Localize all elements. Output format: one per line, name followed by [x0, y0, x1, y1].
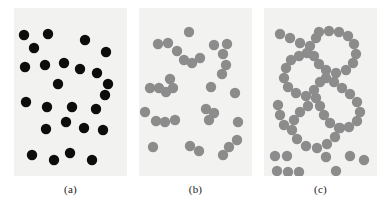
data-point: [218, 150, 228, 160]
data-point: [153, 39, 163, 49]
panel-c: [264, 8, 377, 176]
data-point: [65, 148, 75, 158]
caption-c: (c): [264, 182, 377, 196]
scatter-plot-b: [139, 8, 252, 176]
data-point: [331, 68, 341, 78]
data-point: [53, 79, 63, 89]
data-point: [19, 30, 29, 40]
data-point: [279, 120, 289, 130]
data-point: [349, 39, 359, 49]
panel-a: [14, 8, 127, 176]
data-point: [351, 49, 361, 59]
panels-row: [0, 0, 391, 207]
data-point: [292, 134, 302, 144]
data-point: [75, 64, 85, 74]
data-point: [170, 115, 180, 125]
data-point: [160, 117, 170, 127]
data-point: [67, 102, 77, 112]
data-point: [92, 68, 102, 78]
data-point: [272, 166, 282, 176]
data-point: [140, 107, 150, 117]
data-point: [281, 63, 291, 73]
data-point: [273, 100, 283, 110]
data-point: [279, 73, 289, 83]
data-point: [40, 60, 50, 70]
data-point: [295, 38, 305, 48]
data-point: [79, 123, 89, 133]
data-point: [21, 97, 31, 107]
data-point: [334, 27, 344, 37]
data-point: [98, 125, 108, 135]
data-point: [275, 110, 285, 120]
data-point: [341, 65, 351, 75]
data-point: [43, 29, 53, 39]
data-point: [204, 115, 214, 125]
data-point: [344, 122, 354, 132]
caption-b: (b): [139, 182, 252, 196]
data-point: [80, 35, 90, 45]
data-point: [185, 141, 195, 151]
data-point: [20, 62, 30, 72]
panel-b: [139, 8, 252, 176]
data-point: [319, 110, 329, 120]
data-point: [41, 124, 51, 134]
data-point: [100, 90, 110, 100]
data-point: [101, 47, 111, 57]
data-point: [209, 40, 219, 50]
data-point: [184, 27, 194, 37]
data-point: [289, 115, 299, 125]
data-point: [270, 151, 280, 161]
data-point: [165, 74, 175, 84]
data-point: [194, 146, 204, 156]
data-point: [195, 53, 205, 63]
data-point: [221, 60, 231, 70]
data-point: [230, 88, 240, 98]
data-point: [352, 97, 362, 107]
data-point: [148, 142, 158, 152]
caption-a: (a): [14, 182, 127, 196]
data-point: [283, 167, 293, 176]
data-point: [294, 167, 304, 176]
data-point: [275, 29, 285, 39]
data-point: [103, 79, 113, 89]
data-point: [345, 151, 355, 161]
data-point: [91, 104, 101, 114]
data-point: [29, 43, 39, 53]
data-point: [49, 155, 59, 165]
data-point: [355, 107, 365, 117]
data-point: [218, 49, 228, 59]
data-point: [345, 89, 355, 99]
data-point: [301, 141, 311, 151]
figure-container: (a) (b) (c): [0, 0, 391, 207]
data-point: [27, 150, 37, 160]
data-point: [233, 117, 243, 127]
data-point: [232, 135, 242, 145]
data-point: [324, 26, 334, 36]
data-point: [312, 143, 322, 153]
data-point: [314, 27, 324, 37]
data-point: [151, 116, 161, 126]
data-point: [282, 151, 292, 161]
data-point: [285, 33, 295, 43]
scatter-plot-a: [14, 8, 127, 176]
data-point: [145, 83, 155, 93]
data-point: [331, 166, 341, 176]
data-point: [154, 83, 164, 93]
data-point: [330, 132, 340, 142]
data-point: [222, 39, 232, 49]
data-point: [311, 93, 321, 103]
data-point: [163, 38, 173, 48]
data-point: [42, 102, 52, 112]
data-point: [321, 152, 331, 162]
data-point: [206, 82, 216, 92]
data-point: [335, 123, 345, 133]
data-point: [359, 155, 369, 165]
data-point: [87, 155, 97, 165]
data-point: [61, 117, 71, 127]
data-point: [59, 58, 69, 68]
scatter-plot-c: [264, 8, 377, 176]
data-point: [322, 139, 332, 149]
data-point: [291, 88, 301, 98]
data-point: [217, 69, 227, 79]
data-point: [172, 46, 182, 56]
